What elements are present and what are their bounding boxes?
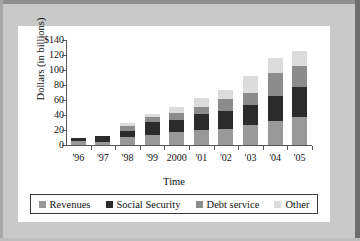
x-axis-tick-mark [115, 146, 116, 150]
bar-segment[interactable] [268, 96, 283, 122]
legend-item[interactable]: Revenues [39, 199, 91, 210]
x-axis-tick-label: '97 [91, 152, 116, 164]
bar-segment[interactable] [292, 117, 307, 145]
bar-segment[interactable] [292, 51, 307, 66]
legend-item-label: Social Security [117, 199, 181, 210]
x-axis-tick-label: '96 [66, 152, 91, 164]
bar-segment[interactable] [292, 66, 307, 87]
bar-segment[interactable] [268, 121, 283, 145]
bar-segment[interactable] [243, 105, 258, 125]
bar-segment[interactable] [194, 107, 209, 115]
other-swatch [274, 201, 281, 208]
bars-layer [66, 40, 312, 145]
x-axis-tick-mark [312, 146, 313, 150]
x-axis-tick-mark [189, 146, 190, 150]
x-axis-tick-mark [164, 146, 165, 150]
stacked-bar[interactable] [145, 114, 160, 146]
x-axis-tick-label: '01 [189, 152, 214, 164]
x-axis-tick-label: 2000 [164, 152, 189, 164]
stacked-bar[interactable] [194, 98, 209, 145]
bar-segment[interactable] [169, 113, 184, 120]
bar-segment[interactable] [218, 129, 233, 146]
debt-service-swatch [196, 201, 203, 208]
bar-segment[interactable] [268, 73, 283, 96]
chart-legend: RevenuesSocial SecurityDebt serviceOther [30, 194, 318, 214]
stacked-bar[interactable] [71, 138, 86, 145]
bar-segment[interactable] [169, 132, 184, 146]
x-axis-title: Time [18, 176, 330, 187]
bar-segment[interactable] [194, 98, 209, 107]
bar-segment[interactable] [71, 141, 86, 145]
x-axis-tick-label: '03 [238, 152, 263, 164]
x-axis-tick-mark [91, 146, 92, 150]
bar-segment[interactable] [120, 137, 135, 145]
frame-border-top [0, 0, 360, 4]
stacked-bar[interactable] [95, 136, 110, 145]
bar-segment[interactable] [218, 99, 233, 112]
bar-segment[interactable] [243, 125, 258, 145]
figure-frame: Dollars (in billions) 020406080100120$14… [0, 0, 360, 241]
x-axis-tick-label: '99 [140, 152, 165, 164]
legend-item-label: Debt service [207, 199, 260, 210]
legend-item[interactable]: Social Security [106, 199, 181, 210]
stacked-bar[interactable] [243, 76, 258, 145]
x-axis-tick-mark [263, 146, 264, 150]
chart-card: Dollars (in billions) 020406080100120$14… [18, 26, 330, 222]
bar-segment[interactable] [95, 142, 110, 145]
x-axis-tick-mark [238, 146, 239, 150]
x-axis-tick-mark [140, 146, 141, 150]
stacked-bar[interactable] [120, 123, 135, 146]
revenues-swatch [39, 201, 46, 208]
frame-border-right [355, 0, 360, 241]
frame-border-left [0, 0, 3, 241]
legend-item-label: Revenues [50, 199, 91, 210]
bar-segment[interactable] [268, 58, 283, 73]
x-axis-tick-labels: '96'97'98'992000'01'02'03'04'05 [66, 152, 312, 168]
bar-segment[interactable] [169, 120, 184, 132]
bar-segment[interactable] [292, 87, 307, 117]
x-axis-tick-label: '02 [214, 152, 239, 164]
legend-item-label: Other [285, 199, 309, 210]
x-axis-tick-label: '98 [115, 152, 140, 164]
plot-area: Dollars (in billions) 020406080100120$14… [18, 26, 330, 176]
x-axis-tick-mark [287, 146, 288, 150]
bar-segment[interactable] [145, 135, 160, 146]
y-axis-tick-mark [62, 145, 67, 146]
stacked-bar[interactable] [292, 51, 307, 145]
stacked-bar[interactable] [169, 107, 184, 145]
bar-segment[interactable] [218, 111, 233, 128]
bar-segment[interactable] [194, 130, 209, 145]
stacked-bar[interactable] [268, 58, 283, 145]
bar-segment[interactable] [243, 76, 258, 93]
x-axis-tick-label: '04 [263, 152, 288, 164]
x-axis-tick-label: '05 [287, 152, 312, 164]
bar-segment[interactable] [218, 90, 233, 99]
bar-segment[interactable] [145, 122, 160, 135]
legend-item[interactable]: Other [274, 199, 309, 210]
social-security-swatch [106, 201, 113, 208]
stacked-bar[interactable] [218, 90, 233, 146]
bar-segment[interactable] [243, 93, 258, 105]
x-axis-tick-mark [214, 146, 215, 150]
bar-segment[interactable] [194, 114, 209, 130]
legend-item[interactable]: Debt service [196, 199, 260, 210]
